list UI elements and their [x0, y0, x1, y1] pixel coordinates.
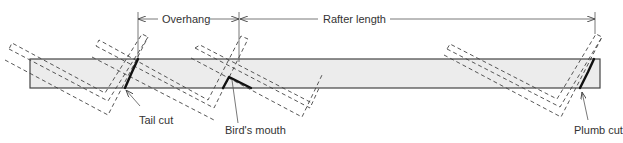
- birds-mouth-label: Bird's mouth: [225, 124, 286, 136]
- plumb-cut-label: Plumb cut: [574, 124, 623, 136]
- tail-cut-leader: [126, 90, 140, 106]
- rafter-board: [30, 59, 600, 88]
- tail-cut-label: Tail cut: [139, 114, 173, 126]
- overhang-label: Overhang: [162, 13, 210, 25]
- plumb-cut-leader: [582, 92, 588, 120]
- rafter-length-label: Rafter length: [323, 13, 386, 25]
- rafter-layout-diagram: Overhang Rafter length Tail cut Bird's m…: [0, 0, 623, 143]
